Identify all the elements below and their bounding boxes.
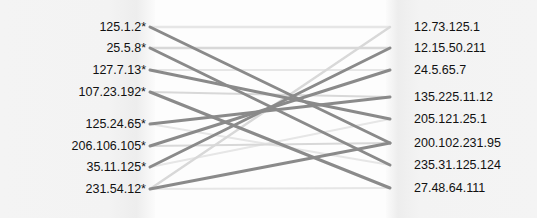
left-node-label: 125.1.2* bbox=[99, 21, 146, 34]
graph-edge bbox=[150, 27, 390, 143]
right-node-label: 12.15.50.211 bbox=[414, 42, 486, 55]
graph-edge bbox=[150, 188, 390, 189]
right-node-label: 135.225.11.12 bbox=[414, 91, 493, 104]
graph-edge bbox=[150, 143, 390, 146]
right-node-label: 27.48.64.111 bbox=[414, 182, 485, 195]
left-node-labels: 125.1.2*25.5.8*127.7.13*107.23.192*125.2… bbox=[0, 0, 146, 218]
left-node-label: 206.106.105* bbox=[72, 140, 146, 153]
left-node-label: 125.24.65* bbox=[86, 118, 146, 131]
right-node-labels: 12.73.125.112.15.50.21124.5.65.7135.225.… bbox=[414, 0, 537, 218]
right-node-label: 24.5.65.7 bbox=[414, 64, 466, 77]
left-node-label: 35.11.125* bbox=[86, 161, 146, 174]
right-node-label: 200.102.231.95 bbox=[414, 137, 501, 150]
bipartite-diagram-canvas: 125.1.2*25.5.8*127.7.13*107.23.192*125.2… bbox=[0, 0, 537, 218]
right-node-label: 205.121.25.1 bbox=[414, 113, 487, 126]
right-node-label: 12.73.125.1 bbox=[414, 21, 480, 34]
left-node-label: 231.54.12* bbox=[86, 183, 146, 196]
left-node-label: 127.7.13* bbox=[92, 64, 146, 77]
left-node-label: 107.23.192* bbox=[79, 86, 146, 99]
left-node-label: 25.5.8* bbox=[106, 42, 146, 55]
right-node-label: 235.31.125.124 bbox=[414, 159, 501, 172]
